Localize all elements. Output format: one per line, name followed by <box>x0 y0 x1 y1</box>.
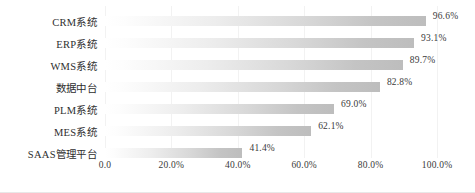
bar-fill <box>105 38 414 48</box>
x-axis: 0.020.0%40.0%60.0%80.0%100.0% <box>105 160 437 180</box>
gridline <box>437 6 438 158</box>
x-axis-tick-label: 20.0% <box>159 160 185 170</box>
bar-row: 96.6% <box>105 10 437 32</box>
bar-value-label: 69.0% <box>341 99 367 109</box>
bar-value-label: 93.1% <box>421 33 447 43</box>
bar-fill <box>105 126 311 136</box>
category-label: 数据中台 <box>0 80 97 95</box>
category-label: ERP系统 <box>0 36 97 51</box>
x-axis-tick-label: 60.0% <box>291 160 317 170</box>
bar-row: 89.7% <box>105 54 437 76</box>
bar-value-label: 62.1% <box>318 121 344 131</box>
bar-value-label: 82.8% <box>387 77 413 87</box>
bar[interactable] <box>105 38 414 48</box>
bar-fill <box>105 104 334 114</box>
bar-fill <box>105 82 380 92</box>
bar-value-label: 89.7% <box>410 55 436 65</box>
bar[interactable] <box>105 82 380 92</box>
category-label: SAAS管理平台 <box>0 146 97 161</box>
bar[interactable] <box>105 60 403 70</box>
plot-area: 96.6%93.1%89.7%82.8%69.0%62.1%41.4% <box>105 6 437 158</box>
bar[interactable] <box>105 126 311 136</box>
bar[interactable] <box>105 16 426 26</box>
category-label: PLM系统 <box>0 102 97 117</box>
bar-fill <box>105 148 242 158</box>
category-label: CRM系统 <box>0 14 97 29</box>
bar-row: 62.1% <box>105 120 437 142</box>
bar[interactable] <box>105 104 334 114</box>
x-axis-tick-label: 0.0 <box>99 160 111 170</box>
x-axis-tick-label: 100.0% <box>422 160 453 170</box>
x-axis-tick-label: 80.0% <box>358 160 384 170</box>
bar[interactable] <box>105 148 242 158</box>
bar-fill <box>105 16 426 26</box>
category-label: MES系统 <box>0 124 97 139</box>
bar-value-label: 41.4% <box>249 143 275 153</box>
bar-chart: 96.6%93.1%89.7%82.8%69.0%62.1%41.4% CRM系… <box>0 0 475 193</box>
bar-fill <box>105 60 403 70</box>
bar-row: 82.8% <box>105 76 437 98</box>
bar-value-label: 96.6% <box>433 11 459 21</box>
x-axis-tick-label: 40.0% <box>225 160 251 170</box>
bar-row: 93.1% <box>105 32 437 54</box>
category-label: WMS系统 <box>0 58 97 73</box>
bar-row: 69.0% <box>105 98 437 120</box>
